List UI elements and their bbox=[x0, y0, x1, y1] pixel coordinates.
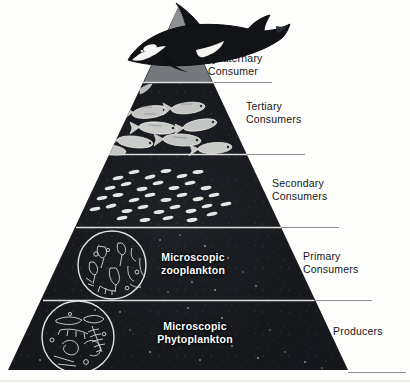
diagram-canvas: Quaternary Consumer Tertiary Consumers S… bbox=[0, 0, 410, 383]
inner-label-zooplankton: Microscopic zooplankton bbox=[128, 251, 258, 276]
level-label-tertiary: Tertiary Consumers bbox=[246, 100, 301, 125]
inner-label-phytoplankton: Microscopic Phytoplankton bbox=[120, 320, 270, 345]
level-label-quaternary: Quaternary Consumer bbox=[208, 52, 263, 77]
level-label-secondary: Secondary Consumers bbox=[272, 177, 327, 202]
level-label-primary: Primary Consumers bbox=[303, 250, 358, 275]
level-label-producers: Producers bbox=[333, 325, 383, 338]
